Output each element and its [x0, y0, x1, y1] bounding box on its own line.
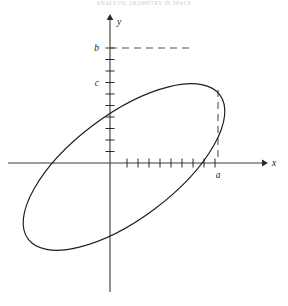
y-axis-label: y [116, 17, 122, 27]
label-c: c [95, 78, 100, 88]
ellipse-plot: y x b c a [0, 0, 288, 306]
y-axis-arrow-icon [107, 14, 114, 20]
label-a: a [216, 170, 221, 180]
figure-container: ANALYTIC GEOMETRY IN SPACE [0, 0, 288, 306]
label-b: b [94, 43, 99, 53]
x-axis-label: x [271, 158, 277, 168]
x-axis-arrow-icon [262, 160, 268, 167]
ellipse-curve [0, 53, 251, 280]
